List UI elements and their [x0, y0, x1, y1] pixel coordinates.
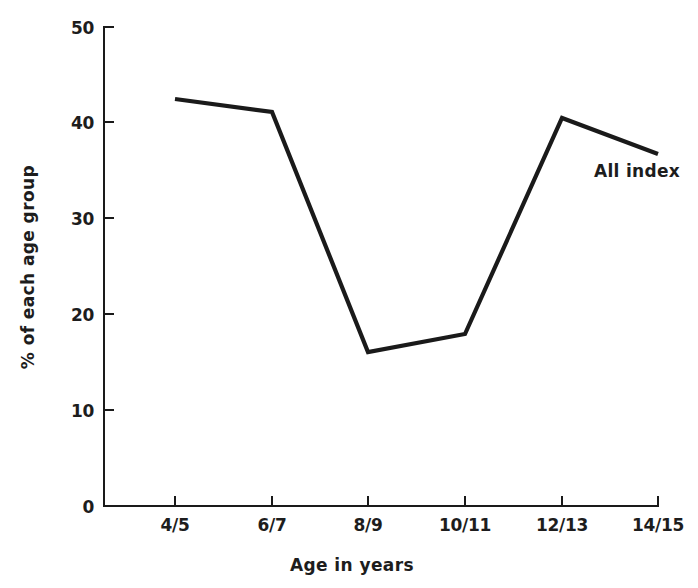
x-tick-label-10-11: 10/11 — [439, 515, 491, 535]
y-axis-title: % of each age group — [18, 165, 38, 369]
x-tick-label-4-5: 4/5 — [161, 515, 190, 535]
y-tick-label-10: 10 — [71, 401, 95, 421]
x-tick-label-6-7: 6/7 — [258, 515, 287, 535]
y-tick-label-40: 40 — [71, 113, 95, 133]
x-axis-title: Age in years — [290, 555, 414, 575]
y-tick-label-50: 50 — [71, 18, 95, 38]
y-tick-label-30: 30 — [71, 209, 95, 229]
series-annotation-all-index: All index — [594, 161, 680, 181]
y-tick-label-0: 0 — [82, 497, 94, 517]
x-tick-label-12-13: 12/13 — [536, 515, 588, 535]
line-chart-figure: 50 40 30 20 10 0 4/5 6/7 8/9 10/11 12/13… — [0, 0, 698, 588]
y-tick-label-20: 20 — [71, 305, 95, 325]
x-tick-label-14-15: 14/15 — [632, 515, 684, 535]
x-tick-label-8-9: 8/9 — [354, 515, 383, 535]
